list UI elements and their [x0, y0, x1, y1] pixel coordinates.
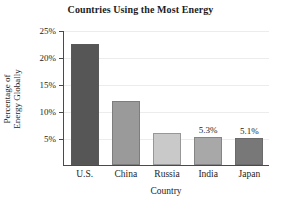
y-axis-title-line-2: Energy Globally: [12, 69, 22, 129]
y-axis-tick-label: 5%: [44, 135, 56, 144]
bar-value-label: 5.1%: [240, 126, 259, 136]
bar[interactable]: [71, 44, 99, 165]
bar[interactable]: [235, 138, 263, 165]
x-axis-tick-label: Russia: [154, 169, 179, 180]
bar[interactable]: [112, 101, 140, 165]
chart-title: Countries Using the Most Energy: [0, 4, 281, 16]
bar-group: 5.3%India: [188, 31, 229, 165]
x-axis-tick-label: India: [198, 169, 218, 180]
bar-series: U.S.ChinaRussia5.3%India5.1%Japan: [64, 31, 269, 165]
bar[interactable]: [153, 133, 181, 165]
x-axis-title: Country: [63, 186, 269, 197]
x-axis-tick-label: Japan: [239, 169, 261, 180]
bar-value-label: 5.3%: [199, 125, 218, 135]
x-axis-tick-label: U.S.: [76, 169, 93, 180]
bar[interactable]: [194, 137, 222, 165]
y-axis-title: Percentage of Energy Globally: [0, 31, 24, 166]
y-axis-tick-label: 15%: [40, 81, 57, 90]
bar-chart: Countries Using the Most Energy Percenta…: [0, 0, 281, 205]
x-axis-tick-label: China: [114, 169, 137, 180]
y-axis-title-line-1: Percentage of: [2, 69, 12, 129]
y-axis-tick-label: 10%: [40, 108, 57, 117]
x-axis-line: [63, 165, 269, 166]
bar-group: China: [105, 31, 146, 165]
y-axis-tick-label: 25%: [40, 27, 57, 36]
bar-group: U.S.: [64, 31, 105, 165]
plot-area: 5%10%15%20%25% U.S.ChinaRussia5.3%India5…: [63, 31, 269, 166]
bar-group: 5.1%Japan: [229, 31, 270, 165]
bar-group: Russia: [146, 31, 187, 165]
y-axis-tick-label: 20%: [40, 54, 57, 63]
